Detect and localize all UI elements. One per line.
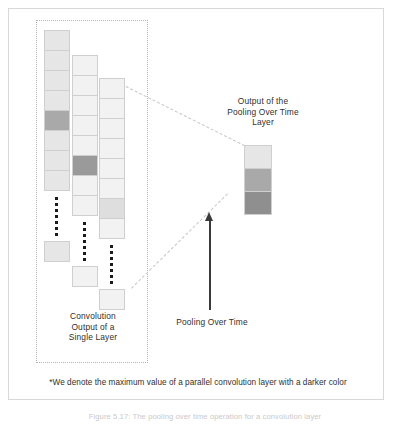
conv-cell-2-2 [72,75,98,96]
ellipsis-dot [83,222,86,225]
ellipsis-dot [83,228,86,231]
pooling-over-time-arrow [203,212,217,310]
conv-cell-1-8 [44,170,70,191]
figure-root: Output of the Pooling Over Time Layer Co… [0,0,400,428]
conv-cell-2-5 [72,135,98,156]
pooling-output-cell-2 [244,168,272,192]
ellipsis-dot [110,269,113,272]
conv-cell-2-8 [72,195,98,216]
conv-cell-3-8 [99,218,125,239]
ellipsis-dot [110,263,113,266]
ellipsis-dot [55,221,58,224]
ellipsis-dot [55,209,58,212]
label-pooling-over-time: Pooling Over Time [166,317,258,328]
conv-cell-1-2 [44,50,70,71]
convolution-column-1 [44,30,70,190]
convolution-column-2 [72,55,98,215]
conv-cell-1-7 [44,150,70,171]
conv-cell-1-5 [44,110,70,131]
conv-cell-2-7 [72,175,98,196]
ellipsis-dot [110,275,113,278]
conv-cell-3-6 [99,178,125,199]
conv-tail-cell-1 [44,241,70,262]
ellipsis-dot [55,233,58,236]
conv-cell-1-1 [44,30,70,51]
conv-cell-3-7 [99,198,125,219]
conv-tail-cell-2 [72,266,98,287]
ellipsis-dot [83,240,86,243]
conv-cell-1-3 [44,70,70,91]
vertical-ellipsis-3 [110,245,113,287]
ellipsis-dot [110,281,113,284]
label-output-of-pooling-over-time-layer: Output of the Pooling Over Time Layer [207,96,319,128]
ellipsis-dot [55,203,58,206]
conv-cell-3-3 [99,118,125,139]
ellipsis-dot [83,234,86,237]
conv-cell-3-4 [99,138,125,159]
ellipsis-dot [83,246,86,249]
vertical-ellipsis-1 [55,197,58,239]
ellipsis-dot [110,251,113,254]
convolution-column-3 [99,78,125,238]
vertical-ellipsis-2 [83,222,86,264]
ellipsis-dot [110,245,113,248]
ellipsis-dot [83,252,86,255]
label-convolution-output-of-a-single-layer: Convolution Output of a Single Layer [50,311,136,343]
conv-cell-3-5 [99,158,125,179]
conv-cell-2-4 [72,115,98,136]
conv-cell-1-6 [44,130,70,151]
conv-tail-cell-3 [99,289,125,310]
figure-caption: Figure 5.17: The pooling over time opera… [30,412,380,424]
ellipsis-dot [55,215,58,218]
ellipsis-dot [83,258,86,261]
footnote-darker-color-note: *We denote the maximum value of a parall… [28,377,368,388]
conv-cell-2-6 [72,155,98,176]
arrow-shaft [209,219,211,310]
conv-cell-2-1 [72,55,98,76]
conv-cell-2-3 [72,95,98,116]
ellipsis-dot [110,257,113,260]
conv-cell-3-2 [99,98,125,119]
conv-cell-1-4 [44,90,70,111]
ellipsis-dot [55,227,58,230]
conv-cell-3-1 [99,78,125,99]
ellipsis-dot [55,197,58,200]
pooling-output-cell-1 [244,145,272,169]
pooling-output-cell-3 [244,191,272,215]
pooling-output-column [244,145,272,214]
